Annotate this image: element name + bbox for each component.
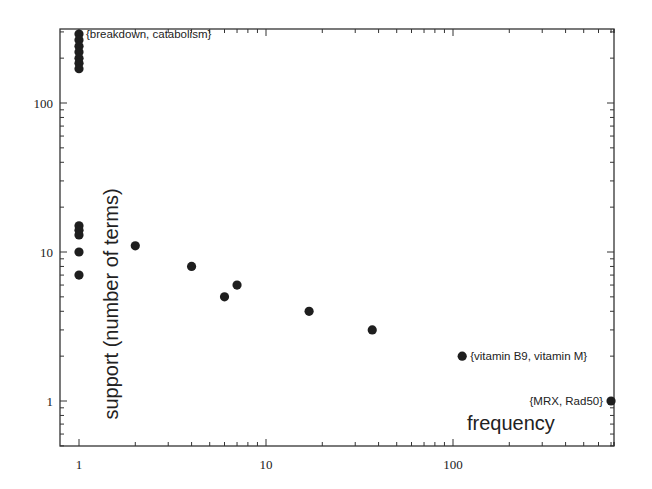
y-axis-label: support (number of terms)	[100, 188, 122, 419]
point-annotation: {breakdown, catabolism}	[86, 28, 211, 40]
plot-frame	[60, 29, 614, 446]
data-point	[232, 280, 241, 289]
data-point	[220, 292, 229, 301]
x-axis-label: frequency	[467, 412, 555, 434]
point-annotations: {breakdown, catabolism}{vitamin B9, vita…	[86, 28, 603, 407]
data-point	[74, 270, 83, 279]
data-point	[368, 325, 377, 334]
data-point	[74, 230, 83, 239]
scatter-chart: 110100 110100 {breakdown, catabolism}{vi…	[0, 0, 652, 489]
data-point	[74, 64, 83, 73]
data-point	[131, 241, 140, 250]
data-point	[74, 247, 83, 256]
x-tick-label: 100	[443, 457, 463, 472]
data-point	[187, 262, 196, 271]
y-tick-label: 10	[40, 245, 53, 260]
y-tick-label: 1	[47, 394, 54, 409]
x-tick-label: 10	[260, 457, 273, 472]
data-point	[304, 307, 313, 316]
x-tick-label: 1	[76, 457, 83, 472]
data-point	[458, 352, 467, 361]
point-annotation: {MRX, Rad50}	[530, 395, 604, 407]
point-annotation: {vitamin B9, vitamin M}	[470, 350, 587, 362]
data-point	[606, 396, 615, 405]
y-tick-label: 100	[34, 96, 54, 111]
